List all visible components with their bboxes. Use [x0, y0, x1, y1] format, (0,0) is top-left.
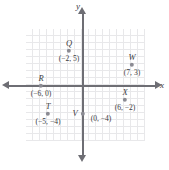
point-coordinates: (7, 3) [124, 69, 140, 77]
arrow-down-icon [78, 155, 86, 162]
y-axis-line [82, 13, 84, 158]
point-coordinates: (6, −2) [115, 104, 136, 112]
point-coordinates: (0, −4) [91, 115, 112, 123]
point-coordinates: (−5, −4) [35, 118, 60, 126]
point-coordinates: (−6, 0) [31, 90, 52, 98]
arrow-left-icon [2, 81, 9, 89]
point-label: R [38, 74, 43, 83]
x-axis-label: x [160, 80, 164, 90]
point-label: T [46, 102, 51, 111]
point-label: X [122, 88, 127, 97]
point-label: Q [66, 39, 72, 48]
point-coordinates: (−2, 5) [59, 55, 80, 63]
y-axis-label: y [76, 1, 80, 11]
coordinate-plane: x y Q(−2, 5)W(7, 3)R(−6, 0)T(−5, −4)V(0,… [0, 0, 169, 170]
point-label: W [128, 53, 135, 62]
point-label: V [72, 109, 77, 118]
